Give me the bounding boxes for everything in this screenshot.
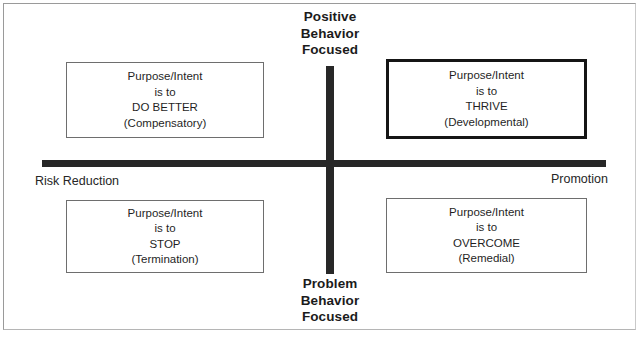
quadrant-line-3: OVERCOME [453,236,520,252]
quadrant-line-2: is to [154,221,175,237]
quadrant-line-1: Purpose/Intent [449,68,524,84]
diagram-canvas: Positive Behavior Focused Problem Behavi… [0,0,643,337]
quadrant-line-1: Purpose/Intent [128,206,203,222]
quadrant-box-stop: Purpose/Intent is to STOP (Termination) [66,200,264,273]
quadrant-line-2: is to [476,220,497,236]
axis-label-problem-line-1: Problem [268,276,392,293]
quadrant-box-do-better: Purpose/Intent is to DO BETTER (Compensa… [66,62,264,138]
quadrant-line-2: is to [154,85,175,101]
axis-label-problem-line-2: Behavior [268,293,392,310]
quadrant-box-thrive: Purpose/Intent is to THRIVE (Development… [386,59,587,139]
axis-label-problem-line-3: Focused [268,309,392,326]
quadrant-line-2: is to [476,84,497,100]
axis-label-positive-line-3: Focused [268,42,392,59]
quadrant-box-overcome: Purpose/Intent is to OVERCOME (Remedial) [386,198,587,273]
quadrant-line-1: Purpose/Intent [449,205,524,221]
quadrant-line-4: (Developmental) [444,115,528,131]
axis-label-problem-behavior-focused: Problem Behavior Focused [268,276,392,326]
axis-label-positive-behavior-focused: Positive Behavior Focused [268,9,392,59]
axis-label-risk-reduction: Risk Reduction [35,174,119,188]
quadrant-line-3: DO BETTER [132,100,198,116]
axis-label-promotion: Promotion [551,172,608,186]
quadrant-line-1: Purpose/Intent [128,69,203,85]
axis-label-positive-line-1: Positive [268,9,392,26]
horizontal-axis [42,160,606,167]
quadrant-line-4: (Remedial) [458,251,514,267]
vertical-axis [326,66,334,274]
quadrant-line-4: (Termination) [131,252,198,268]
quadrant-line-3: STOP [149,237,180,253]
quadrant-line-4: (Compensatory) [124,116,206,132]
axis-label-positive-line-2: Behavior [268,26,392,43]
quadrant-line-3: THRIVE [465,99,507,115]
